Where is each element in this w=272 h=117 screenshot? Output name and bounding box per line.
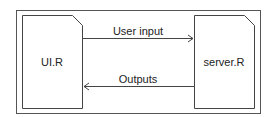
- server-node-label: server.R: [204, 57, 245, 68]
- ui-node-label: UI.R: [41, 57, 63, 68]
- user-input-edge-label: User input: [113, 26, 163, 37]
- outputs-edge-label: Outputs: [119, 74, 158, 85]
